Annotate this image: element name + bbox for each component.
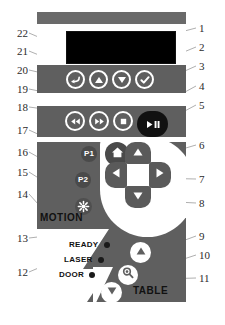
control-panel: P1 P2 (37, 12, 186, 302)
dpad-down-button[interactable] (125, 186, 151, 208)
callout-4: 4 (199, 81, 205, 92)
home-icon (110, 145, 125, 164)
dpad-right-button[interactable] (149, 162, 171, 188)
triangle-down-icon (131, 188, 145, 206)
focus-magnifier-icon (121, 266, 135, 284)
led-door-lamp (89, 272, 95, 278)
preset-p1-button[interactable]: P1 (81, 146, 97, 162)
callout-1: 1 (199, 23, 205, 34)
table-section-label: TABLE (133, 285, 168, 296)
dpad-left-button[interactable] (105, 162, 127, 188)
play-pause-button[interactable] (137, 111, 168, 137)
status-label-laser: LASER (64, 255, 93, 264)
triangle-down-icon (105, 284, 119, 302)
table-down-button[interactable] (101, 282, 122, 302)
play-pause-icon (142, 118, 164, 131)
status-label-door: DOOR (59, 270, 84, 279)
callout-12: 12 (6, 267, 28, 278)
rewind-button[interactable] (65, 111, 85, 131)
callout-10: 10 (199, 250, 210, 261)
callout-5: 5 (199, 100, 205, 111)
back-arrow-icon (70, 74, 82, 86)
triangle-up-icon (134, 244, 148, 262)
back-button[interactable] (66, 70, 85, 89)
led-laser-lamp (98, 257, 104, 263)
callout-9: 9 (199, 231, 205, 242)
callout-19: 19 (6, 84, 28, 95)
callout-2: 2 (199, 42, 205, 53)
callout-8: 8 (199, 198, 205, 209)
fast-forward-button[interactable] (89, 111, 109, 131)
callout-18: 18 (6, 102, 28, 113)
rewind-icon (69, 115, 82, 128)
callout-21: 21 (6, 46, 28, 57)
triangle-left-icon (110, 166, 122, 184)
callout-16: 16 (6, 147, 28, 158)
stop-button[interactable] (113, 111, 133, 131)
callout-20: 20 (6, 65, 28, 76)
status-indicator-ready: READY (69, 240, 110, 249)
callout-3: 3 (199, 61, 205, 72)
menu-down-button[interactable] (112, 70, 131, 89)
triangle-right-icon (154, 166, 166, 184)
callout-14: 14 (6, 189, 28, 200)
preset-p2-button[interactable]: P2 (75, 172, 91, 188)
stop-icon (117, 115, 130, 128)
fast-forward-icon (93, 115, 106, 128)
status-label-ready: READY (69, 240, 99, 249)
status-indicator-laser: LASER (64, 255, 104, 264)
table-up-button[interactable] (130, 242, 151, 263)
dpad-up-button[interactable] (125, 142, 151, 164)
triangle-up-icon (93, 74, 105, 86)
table-focus-button[interactable] (118, 265, 138, 285)
figure-root: P1 P2 (0, 0, 225, 325)
triangle-down-icon (116, 74, 128, 86)
dpad (105, 142, 171, 208)
callout-15: 15 (6, 167, 28, 178)
callout-6: 6 (199, 140, 205, 151)
led-ready-lamp (104, 242, 110, 248)
triangle-up-icon (131, 144, 145, 162)
confirm-button[interactable] (135, 70, 154, 89)
check-icon (139, 74, 151, 86)
callout-17: 17 (6, 125, 28, 136)
callout-13: 13 (6, 233, 28, 244)
callout-7: 7 (199, 174, 205, 185)
lcd-display (66, 31, 176, 64)
callout-11: 11 (199, 273, 210, 284)
motion-section-label: MOTION (40, 212, 83, 223)
menu-up-button[interactable] (89, 70, 108, 89)
panel-top-strip (37, 12, 186, 24)
status-indicator-door: DOOR (59, 270, 95, 279)
callout-22: 22 (6, 28, 28, 39)
